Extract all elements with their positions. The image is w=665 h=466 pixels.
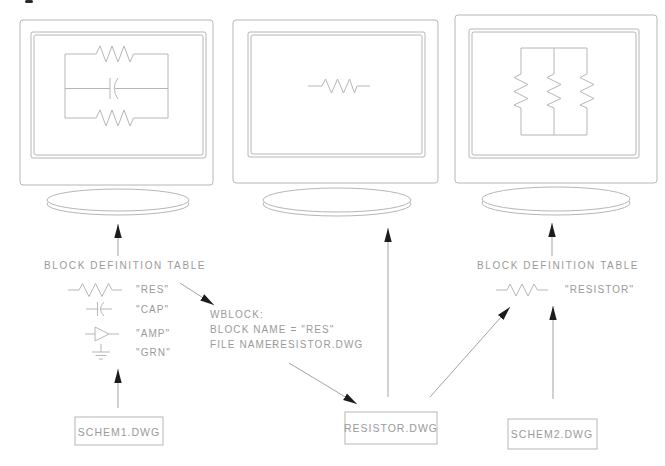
- wblock-diagram: BLOCK DEFINITION TABLE "RES" "CAP" "AMP"…: [0, 0, 665, 466]
- monitor-middle-body: [233, 20, 438, 183]
- monitor-right-base: [482, 187, 630, 211]
- resistor-symbol: [496, 284, 548, 296]
- wblock-line1: WBLOCK:: [210, 309, 264, 320]
- file-box-resistor: RESISTOR.DWG: [344, 412, 438, 444]
- wblock-line3-label: FILE NAME:: [210, 339, 277, 350]
- left-block-definition-table: BLOCK DEFINITION TABLE "RES" "CAP" "AMP"…: [44, 260, 206, 359]
- monitor-right: [455, 15, 657, 215]
- wblock-note: WBLOCK: BLOCK NAME = "RES" FILE NAME: RE…: [210, 309, 363, 350]
- ground-symbol: [92, 344, 110, 359]
- schem1-label: SCHEM1.DWG: [78, 426, 160, 438]
- right-table-title: BLOCK DEFINITION TABLE: [477, 260, 639, 271]
- res-label: "RES": [136, 284, 169, 295]
- arrow-resistor-dwg-to-right-table: [430, 307, 510, 397]
- monitor-left-base: [47, 189, 189, 211]
- schem2-label: SCHEM2.DWG: [511, 428, 593, 440]
- capacitor-symbol: [86, 302, 112, 316]
- amp-label: "AMP": [136, 328, 170, 339]
- monitor-left: [20, 20, 213, 215]
- arrow-wblock-to-resistor-dwg: [289, 363, 357, 404]
- cropped-text-fragment: [25, 0, 33, 3]
- right-block-definition-table: BLOCK DEFINITION TABLE "RESISTOR": [477, 260, 639, 296]
- monitor-middle-base: [263, 188, 411, 212]
- resistor-dwg-label: RESISTOR.DWG: [344, 422, 438, 434]
- wblock-line3-value: RESISTOR.DWG: [272, 339, 363, 350]
- cap-label: "CAP": [136, 304, 169, 315]
- amplifier-symbol: [85, 327, 119, 341]
- file-box-schem2: SCHEM2.DWG: [508, 419, 597, 449]
- monitor-left-body: [20, 20, 213, 185]
- arrow-res-to-wblock: [180, 283, 214, 305]
- file-box-schem1: SCHEM1.DWG: [75, 417, 163, 445]
- grn-label: "GRN": [136, 347, 171, 358]
- resistor-label: "RESISTOR": [565, 284, 634, 295]
- monitor-middle: [233, 20, 438, 216]
- figure-canvas: BLOCK DEFINITION TABLE "RES" "CAP" "AMP"…: [0, 0, 665, 466]
- resistor-symbol: [68, 284, 122, 297]
- left-table-title: BLOCK DEFINITION TABLE: [44, 260, 206, 271]
- wblock-line2: BLOCK NAME = "RES": [210, 324, 334, 335]
- arrows: [118, 223, 553, 408]
